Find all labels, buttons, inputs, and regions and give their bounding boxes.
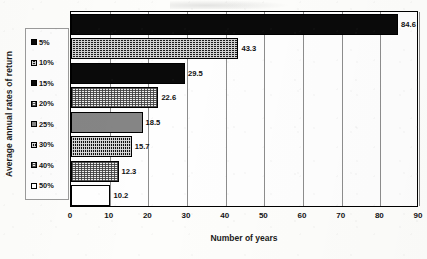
bar-25pct — [71, 112, 143, 133]
legend-swatch-icon — [31, 183, 37, 189]
bar-40pct — [71, 161, 119, 182]
y-axis-title: Average annual rates of return — [0, 28, 18, 200]
legend-item-30pct: 30% — [26, 140, 68, 149]
bar-50pct — [71, 185, 110, 206]
legend-item-15pct: 15% — [26, 79, 68, 88]
legend-swatch-icon — [31, 142, 37, 148]
bars-layer: 84.643.329.522.618.515.712.310.2 — [71, 12, 417, 206]
legend-item-50pct: 50% — [26, 181, 68, 190]
legend-item-5pct: 5% — [26, 38, 68, 47]
x-tick-label: 10 — [104, 211, 113, 220]
legend-item-10pct: 10% — [26, 58, 68, 67]
legend-item-label: 10% — [39, 58, 54, 67]
bar-row: 84.6 — [71, 14, 419, 35]
bar-value-label: 22.6 — [161, 93, 176, 102]
bar-value-label: 18.5 — [146, 118, 161, 127]
x-tick-label: 90 — [414, 211, 423, 220]
legend-swatch-icon — [31, 101, 37, 107]
x-tick-label: 20 — [143, 211, 152, 220]
legend-swatch-icon — [31, 121, 37, 127]
plot-area: 84.643.329.522.618.515.712.310.2 — [70, 11, 418, 207]
bar-value-label: 12.3 — [122, 167, 137, 176]
legend-item-20pct: 20% — [26, 99, 68, 108]
x-tick-label: 60 — [298, 211, 307, 220]
x-tick-label: 80 — [375, 211, 384, 220]
legend-item-label: 20% — [39, 99, 54, 108]
legend-swatch-icon — [31, 39, 37, 45]
bar-value-label: 43.3 — [241, 44, 256, 53]
x-tick-label: 0 — [68, 211, 72, 220]
y-axis-title-text: Average annual rates of return — [4, 51, 14, 177]
legend-item-label: 5% — [39, 38, 50, 47]
legend-item-25pct: 25% — [26, 120, 68, 129]
bar-row: 43.3 — [71, 38, 419, 59]
x-tick-label: 30 — [182, 211, 191, 220]
legend-swatch-icon — [31, 80, 37, 86]
legend-item-label: 30% — [39, 140, 54, 149]
legend-item-label: 40% — [39, 161, 54, 170]
bar-30pct — [71, 136, 132, 157]
legend-item-label: 25% — [39, 120, 54, 129]
bar-20pct — [71, 87, 158, 108]
legend-item-label: 50% — [39, 181, 54, 190]
bar-value-label: 10.2 — [113, 191, 128, 200]
gridline — [419, 12, 420, 206]
legend-swatch-icon — [31, 60, 37, 66]
x-axis-title: Number of years — [70, 233, 418, 243]
bar-row: 12.3 — [71, 161, 419, 182]
x-tick-label: 40 — [220, 211, 229, 220]
bar-chart: Average annual rates of return 5%10%15%2… — [0, 0, 427, 259]
chart-legend: 5%10%15%20%25%30%40%50% — [25, 28, 69, 200]
bar-value-label: 15.7 — [135, 142, 150, 151]
legend-item-40pct: 40% — [26, 161, 68, 170]
bar-row: 10.2 — [71, 185, 419, 206]
bar-row: 29.5 — [71, 63, 419, 84]
x-tick-label: 50 — [259, 211, 268, 220]
bar-10pct — [71, 38, 238, 59]
bar-value-label: 29.5 — [188, 69, 203, 78]
bar-value-label: 84.6 — [401, 20, 416, 29]
x-tick-label: 70 — [336, 211, 345, 220]
bar-5pct — [71, 14, 398, 35]
bar-row: 18.5 — [71, 112, 419, 133]
bar-row: 22.6 — [71, 87, 419, 108]
bar-15pct — [71, 63, 185, 84]
x-axis-tick-labels: 0102030405060708090 — [70, 211, 418, 223]
legend-swatch-icon — [31, 162, 37, 168]
legend-item-label: 15% — [39, 79, 54, 88]
bar-row: 15.7 — [71, 136, 419, 157]
